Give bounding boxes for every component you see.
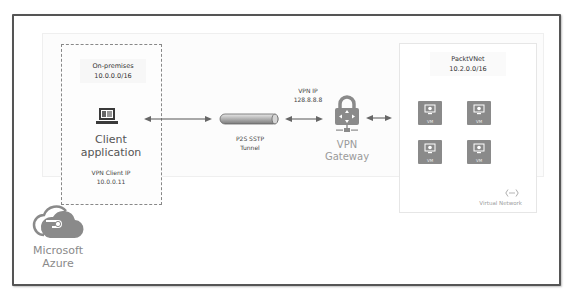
arrow-tunnel-gateway [285, 115, 323, 123]
on-premises-name: On-premises [80, 59, 146, 71]
vpn-ip-value: 128.8.8.8 [286, 95, 330, 104]
vnet-cidr: 10.2.0.0/16 [430, 64, 506, 74]
tunnel-label: P2S SSTP Tunnel [220, 134, 280, 152]
vm-3[interactable]: VM [418, 140, 442, 164]
client-application-label: Client application [66, 133, 156, 159]
on-premises-title: On-premises 10.0.0.0/16 [80, 59, 146, 83]
vm-label: VM [467, 119, 491, 124]
vm-label: VM [418, 158, 442, 163]
vm-1[interactable]: VM [418, 101, 442, 125]
virtual-network-icon [505, 189, 519, 197]
vm-monitor-icon [473, 143, 485, 155]
vpn-client-ip-label: VPN Client IP [66, 168, 156, 177]
vpn-ip: VPN IP 128.8.8.8 [286, 86, 330, 104]
tunnel-label-line2: Tunnel [220, 143, 280, 152]
vpn-client-ip-value: 10.0.0.11 [66, 177, 156, 186]
azure-label-line1: Microsoft [22, 244, 94, 257]
vm-label: VM [467, 158, 491, 163]
azure-label-line2: Azure [22, 257, 94, 270]
vpn-client-ip: VPN Client IP 10.0.0.11 [66, 168, 156, 186]
vpn-ip-label: VPN IP [286, 86, 330, 95]
vm-2[interactable]: VM [467, 101, 491, 125]
client-label-line2: application [66, 146, 156, 159]
client-label-line1: Client [66, 133, 156, 146]
vm-label: VM [418, 119, 442, 124]
vnet-name: PacktVNet [430, 52, 506, 64]
microsoft-azure-label: Microsoft Azure [22, 244, 94, 270]
vm-monitor-icon [424, 143, 436, 155]
laptop-icon [96, 107, 118, 125]
vm-monitor-icon [473, 104, 485, 116]
gateway-label-line2: Gateway [320, 151, 374, 163]
vpn-gateway-lock-icon [331, 95, 363, 135]
tunnel-label-line1: P2S SSTP [220, 134, 280, 143]
vpn-gateway-label: VPN Gateway [320, 139, 374, 163]
azure-cloud-icon [30, 205, 86, 241]
tunnel-pipe-icon [219, 113, 281, 125]
on-premises-cidr: 10.0.0.0/16 [80, 71, 146, 81]
arrow-client-tunnel [144, 115, 212, 123]
vnet-title: PacktVNet 10.2.0.0/16 [430, 52, 506, 76]
virtual-network-label: Virtual Network [460, 200, 522, 206]
gateway-label-line1: VPN [320, 139, 374, 151]
arrow-gateway-vnet [366, 114, 392, 122]
vm-4[interactable]: VM [467, 140, 491, 164]
vm-monitor-icon [424, 104, 436, 116]
